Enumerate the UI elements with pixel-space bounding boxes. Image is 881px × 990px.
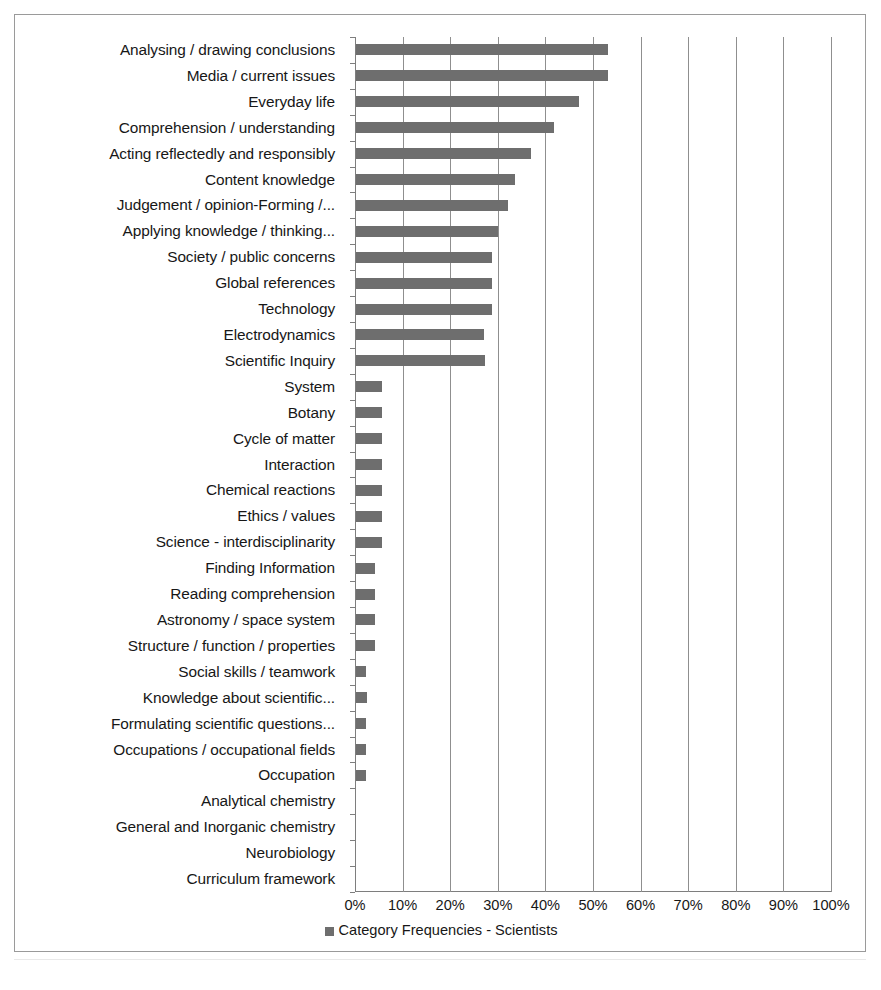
value-tick-label: 60% [626,896,655,914]
value-tick-label: 90% [769,896,798,914]
gridline [783,37,784,892]
category-tick [350,63,355,64]
category-label: Analytical chemistry [201,793,335,809]
value-tick-label: 40% [531,896,560,914]
gridline [831,37,832,892]
value-tick-label: 100% [812,896,849,914]
category-label: Structure / function / properties [128,638,335,654]
gridline [736,37,737,892]
category-tick [350,452,355,453]
category-tick [350,840,355,841]
value-tick-label: 70% [674,896,703,914]
bar [356,148,531,159]
gridline [498,37,499,892]
value-tick-label: 30% [483,896,512,914]
category-tick [350,814,355,815]
bar [356,433,382,444]
gridline [641,37,642,892]
bar [356,304,492,315]
bar [356,485,382,496]
category-label: Content knowledge [205,172,335,188]
category-tick [350,115,355,116]
category-tick [350,529,355,530]
category-label: Social skills / teamwork [178,664,335,680]
category-label: Astronomy / space system [157,612,335,628]
value-tick-label: 0% [344,896,365,914]
category-tick [350,270,355,271]
category-label: Finding Information [205,560,335,576]
plot-area [355,37,831,892]
gridline [450,37,451,892]
bar [356,44,608,55]
category-tick [350,426,355,427]
bar [356,563,375,574]
category-tick [350,296,355,297]
category-tick [350,866,355,867]
category-tick [350,633,355,634]
bar [356,278,492,289]
figure-frame: Analysing / drawing conclusionsMedia / c… [14,14,866,952]
bar [356,329,484,340]
category-tick [350,762,355,763]
category-tick [350,89,355,90]
bar [356,614,375,625]
category-tick [350,659,355,660]
category-label: Acting reflectedly and responsibly [109,146,335,162]
category-label: Curriculum framework [186,871,335,887]
category-label: Occupation [258,767,335,783]
category-tick [350,348,355,349]
bar [356,718,366,729]
category-tick [350,244,355,245]
bar [356,200,508,211]
bar [356,226,498,237]
bar [356,122,554,133]
category-tick [350,167,355,168]
category-tick [350,737,355,738]
value-tick-label: 10% [388,896,417,914]
category-label: Technology [258,301,335,317]
bar [356,770,366,781]
bar [356,692,367,703]
value-axis-labels: 0%10%20%30%40%50%60%70%80%90%100% [355,896,855,918]
category-label: General and Inorganic chemistry [116,819,335,835]
category-tick [350,322,355,323]
category-label: Interaction [264,457,335,473]
bar [356,537,382,548]
category-tick [350,581,355,582]
category-label: Electrodynamics [224,327,335,343]
category-label: Everyday life [248,94,335,110]
category-label: Neurobiology [246,845,336,861]
category-label: Chemical reactions [206,482,335,498]
category-label: Comprehension / understanding [119,120,335,136]
bar [356,511,382,522]
bar-chart: Analysing / drawing conclusionsMedia / c… [15,15,867,953]
category-label: Knowledge about scientific... [143,690,335,706]
category-tick [350,400,355,401]
category-label: Society / public concerns [167,249,335,265]
chart-legend: Category Frequencies - Scientists [15,921,867,940]
bar [356,666,366,677]
category-label: Ethics / values [237,508,335,524]
bar [356,459,382,470]
category-tick [350,477,355,478]
category-tick [350,192,355,193]
category-label: Cycle of matter [233,431,335,447]
category-tick [350,218,355,219]
category-label: Media / current issues [187,68,335,84]
category-label: System [284,379,335,395]
caption-divider [14,959,866,960]
category-tick [350,892,355,893]
category-tick [350,37,355,38]
gridline [688,37,689,892]
bar [356,407,382,418]
category-tick [350,374,355,375]
bar [356,640,375,651]
category-tick [350,555,355,556]
bar [356,589,375,600]
category-label: Reading comprehension [170,586,335,602]
category-label: Judgement / opinion-Forming /... [117,197,335,213]
category-label: Formulating scientific questions... [111,716,335,732]
category-label: Global references [215,275,335,291]
gridline [593,37,594,892]
category-tick [350,141,355,142]
